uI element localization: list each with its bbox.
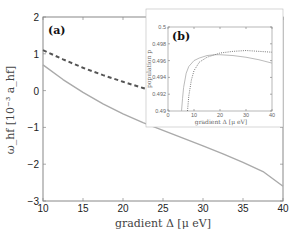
main-y-tick-label: 2	[33, 12, 39, 23]
inset-panel-label: (b)	[172, 30, 190, 43]
inset-y-tick-label: 0.498	[152, 41, 166, 47]
inset-y-tick-label: 0.49	[155, 108, 166, 114]
inset-y-tick-label: 0.496	[152, 58, 166, 64]
inset-y-tick-label: 0.494	[152, 74, 166, 80]
main-y-tick-label: −1	[28, 122, 40, 133]
inset-x-tick-label: 0	[166, 112, 169, 118]
main-y-tick-label: −3	[28, 196, 40, 207]
main-x-tick-label: 35	[237, 203, 249, 214]
main-y-tick-label: −2	[28, 159, 40, 170]
main-x-tick-label: 20	[117, 203, 129, 214]
main-x-tick-label: 40	[277, 203, 289, 214]
main-panel-label: (a)	[48, 24, 66, 37]
main-y-tick-label: 1	[33, 49, 39, 60]
chart: 10152025303540−3−2−1012 (a) gradient Δ […	[0, 0, 302, 239]
inset-x-axis-title: gradient Δ [μ eV]	[195, 118, 247, 126]
main-x-axis-title: gradient Δ [μ eV]	[115, 217, 211, 230]
inset-x-tick-label: 40	[269, 112, 275, 118]
main-x-tick-label: 15	[77, 203, 89, 214]
main-x-tick-label: 30	[197, 203, 209, 214]
main-x-tick-label: 10	[37, 203, 49, 214]
main-y-axis-title: ω_hf [10⁻³ a_hf]	[4, 66, 17, 155]
inset-y-tick-label: 0.5	[158, 24, 166, 30]
inset-y-axis-title: population p	[145, 50, 153, 88]
main-y-tick-label: 0	[33, 86, 39, 97]
inset-y-tick-label: 0.492	[152, 91, 166, 97]
main-x-tick-label: 25	[157, 203, 169, 214]
